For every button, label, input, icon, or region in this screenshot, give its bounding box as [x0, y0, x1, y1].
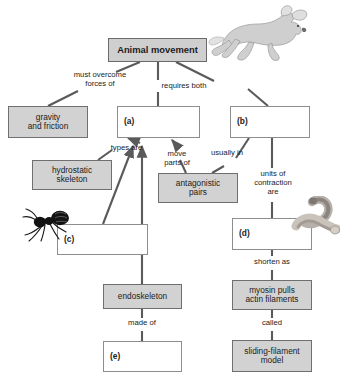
node-label: endoskeleton	[118, 292, 167, 301]
edge-label-usually-in: usually in	[205, 149, 249, 158]
node-hydrostatic-skeleton[interactable]: hydrostatic skeleton	[32, 160, 112, 190]
node-label: hydrostatic skeleton	[52, 166, 92, 185]
node-label: (b)	[231, 117, 248, 126]
node-label: sliding-filament model	[244, 347, 299, 366]
node-label: (c)	[58, 235, 74, 244]
node-sliding-filament-model[interactable]: sliding-filament model	[232, 340, 312, 372]
node-blank-c[interactable]: (c)	[57, 224, 148, 255]
node-label: (d)	[233, 229, 250, 238]
edge-label-types-are: types are	[104, 144, 149, 153]
node-blank-e[interactable]: (e)	[103, 341, 182, 372]
node-label: antagonistic pairs	[176, 179, 220, 198]
node-blank-d[interactable]: (d)	[232, 218, 312, 250]
edge-label-shorten-as: shorten as	[247, 258, 297, 267]
node-endoskeleton[interactable]: endoskeleton	[103, 284, 182, 309]
node-gravity-friction[interactable]: gravity and friction	[8, 106, 88, 138]
edge-label-made-of: made of	[122, 319, 162, 328]
node-blank-a[interactable]: (a)	[117, 106, 200, 138]
node-label: myosin pulls actin filaments	[245, 286, 298, 305]
node-blank-b[interactable]: (b)	[230, 106, 310, 138]
edge-label-called: called	[256, 319, 288, 328]
node-label: (a)	[118, 117, 134, 126]
node-myosin-pulls-actin[interactable]: myosin pulls actin filaments	[232, 280, 312, 310]
edge-label-requires-both: requires both	[153, 82, 215, 91]
edge-label-must-overcome-forces-of: must overcome forces of	[62, 71, 138, 89]
node-antagonistic-pairs[interactable]: antagonistic pairs	[158, 173, 238, 203]
concept-map-canvas: Animal movement gravity and friction (a)…	[0, 0, 340, 378]
node-label: Animal movement	[117, 45, 198, 56]
edge-label-move-parts-of: move parts of	[157, 150, 197, 168]
node-animal-movement[interactable]: Animal movement	[108, 38, 207, 62]
node-label: (e)	[104, 352, 120, 361]
node-label: gravity and friction	[28, 113, 69, 132]
edge-label-units-of-contraction-are: units of contraction are	[248, 170, 298, 197]
